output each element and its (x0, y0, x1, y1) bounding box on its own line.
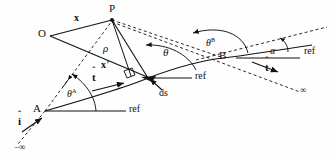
label-ref-right: ref (304, 46, 315, 56)
label-point-O: O (38, 28, 46, 39)
label-theta-A-superscript: A (72, 87, 76, 94)
label-theta-B: θB (206, 37, 215, 48)
unit-tangent-arrow-left (92, 83, 124, 91)
geometry-figure: P O A B x ρ x' ˆt θ θA θB α ˆt ˆi ds ref… (0, 0, 336, 161)
label-rho: ρ (103, 43, 108, 54)
label-vector-x-prime-mark: ' (106, 59, 109, 70)
segment-O-curve (50, 36, 152, 79)
label-ref-middle: ref (195, 71, 206, 81)
hat-accent-left: ˆ (92, 67, 95, 76)
hat-accent-right: ˆ (265, 57, 268, 66)
label-vector-x-prime: x' (101, 60, 109, 70)
label-unit-tangent-right: ˆt (265, 62, 269, 73)
label-alpha: α (270, 46, 275, 56)
unit-i-arrow (22, 118, 42, 132)
diagram-canvas (0, 0, 336, 161)
label-theta: θ (163, 47, 168, 58)
label-unit-tangent-left: ˆt (92, 72, 96, 83)
label-theta-A: θA (67, 88, 76, 99)
label-point-P: P (109, 3, 115, 14)
label-vector-x: x (74, 13, 79, 23)
label-infinity-negative: −∞ (14, 143, 26, 152)
P-point-marker (110, 18, 114, 22)
label-infinity-positive: ∞ (300, 86, 306, 95)
label-unit-i: ˆi (18, 116, 21, 127)
label-theta-B-superscript: B (211, 36, 215, 43)
theta-angle-arc (146, 45, 196, 70)
label-ref-bottom-left: ref (129, 104, 140, 114)
ds-point-marker (141, 76, 156, 82)
asymptote-lower-left (18, 111, 45, 144)
label-ds: ds (159, 88, 168, 98)
label-point-A: A (33, 103, 41, 114)
label-point-B: B (219, 50, 226, 61)
hat-accent-i: ˆ (18, 111, 21, 120)
